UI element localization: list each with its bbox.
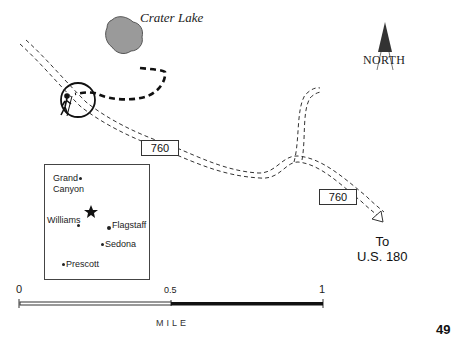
city-prescott: Prescott <box>66 259 99 270</box>
city-label-line2: Canyon <box>53 184 84 195</box>
scale-bar <box>19 299 323 308</box>
north-label: NORTH <box>363 53 405 68</box>
city-williams: Williams <box>47 215 81 226</box>
scale-unit-label: MILE <box>156 318 189 328</box>
road-sign-760-east: 760 <box>319 189 357 205</box>
city-dot <box>62 263 65 266</box>
crater-lake-shape <box>106 17 143 54</box>
city-dot <box>77 224 80 227</box>
destination-line2: U.S. 180 <box>357 249 408 264</box>
city-flagstaff: Flagstaff <box>112 220 146 231</box>
destination-label: To U.S. 180 <box>357 234 408 264</box>
destination-line1: To <box>357 234 408 249</box>
city-dot <box>107 226 111 230</box>
page-number: 49 <box>436 322 450 337</box>
city-dot <box>101 243 104 246</box>
hiker-icon <box>61 94 72 116</box>
road-sign-760: 760 <box>141 140 179 156</box>
locator-inset-map: Grand Canyon Williams Flagstaff Sedona P… <box>44 164 150 280</box>
trail <box>75 68 165 99</box>
scale-tick-half: 0.5 <box>164 285 177 295</box>
crater-lake-label: Crater Lake <box>140 10 203 26</box>
scale-tick-1: 1 <box>319 283 325 295</box>
city-dot <box>79 177 82 180</box>
scale-tick-0: 0 <box>16 283 22 295</box>
city-sedona: Sedona <box>105 239 136 250</box>
